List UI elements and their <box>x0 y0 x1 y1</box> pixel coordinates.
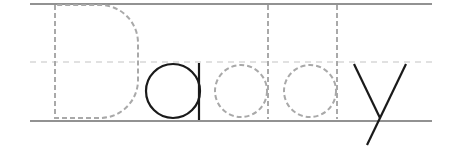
letter-y-solid <box>354 64 406 145</box>
handwriting-worksheet: Daddy <box>0 0 454 150</box>
tracing-canvas <box>0 0 454 150</box>
letter-a-solid <box>146 63 200 120</box>
